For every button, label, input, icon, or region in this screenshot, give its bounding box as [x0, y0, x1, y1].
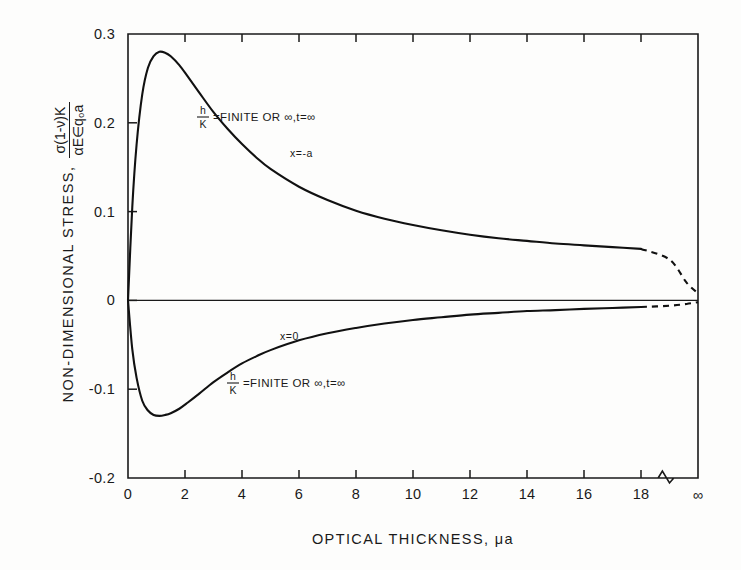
x-tick-label: 6	[295, 486, 303, 502]
annotation-upper-curve-label: x=-a	[290, 147, 313, 159]
figure-container: 024681012141618∞ 0.30.20.10-0.1-0.2 hK=F…	[0, 0, 741, 570]
curve-x-zero	[128, 300, 641, 415]
curve-x-minus-a	[128, 52, 641, 301]
y-tick-label: -0.1	[89, 381, 115, 397]
x-tick-label: 8	[352, 486, 360, 502]
y-tick-label: 0.1	[94, 204, 115, 220]
annotation-equation-text: =FINITE OR ∞,t=∞	[213, 111, 316, 123]
x-tick-labels: 024681012141618∞	[124, 486, 704, 503]
annotation-lower-condition: hK=FINITE OR ∞,t=∞	[227, 370, 346, 396]
curve-x-minus-a-extrapolated	[641, 249, 698, 293]
x-tick-label: 16	[576, 486, 593, 502]
x-tick-label: 2	[181, 486, 189, 502]
plot-border	[128, 34, 698, 483]
x-tick-label: 4	[238, 486, 246, 502]
x-axis-title: OPTICAL THICKNESS, μa	[312, 531, 514, 547]
data-curves	[128, 52, 698, 416]
fraction-numerator: h	[230, 370, 236, 382]
curve-x-zero-extrapolated	[641, 302, 698, 307]
x-tick-label: 0	[124, 486, 132, 502]
fraction-numerator: h	[200, 104, 206, 116]
annotation-equation-text: =FINITE OR ∞,t=∞	[243, 377, 346, 389]
y-tick-label: -0.2	[89, 470, 115, 486]
x-tick-label: 18	[633, 486, 650, 502]
x-tick-label: ∞	[693, 487, 704, 503]
x-tick-label: 14	[519, 486, 536, 502]
fraction-denominator: K	[229, 384, 236, 396]
x-tick-label: 12	[462, 486, 479, 502]
plot-frame	[128, 34, 698, 483]
annotation-lower-curve-label: x=0	[280, 330, 299, 342]
chart-canvas: 024681012141618∞ 0.30.20.10-0.1-0.2 hK=F…	[0, 0, 741, 570]
annotation-upper-condition: hK=FINITE OR ∞,t=∞	[197, 104, 316, 130]
y-tick-labels: 0.30.20.10-0.1-0.2	[89, 26, 115, 486]
y-tick-label: 0.3	[94, 26, 115, 42]
y-tick-label: 0	[107, 292, 115, 308]
chart-annotations: hK=FINITE OR ∞,t=∞x=-ax=0hK=FINITE OR ∞,…	[197, 104, 346, 396]
fraction-denominator: K	[199, 118, 206, 130]
y-tick-label: 0.2	[94, 115, 115, 131]
x-tick-label: 10	[405, 486, 422, 502]
